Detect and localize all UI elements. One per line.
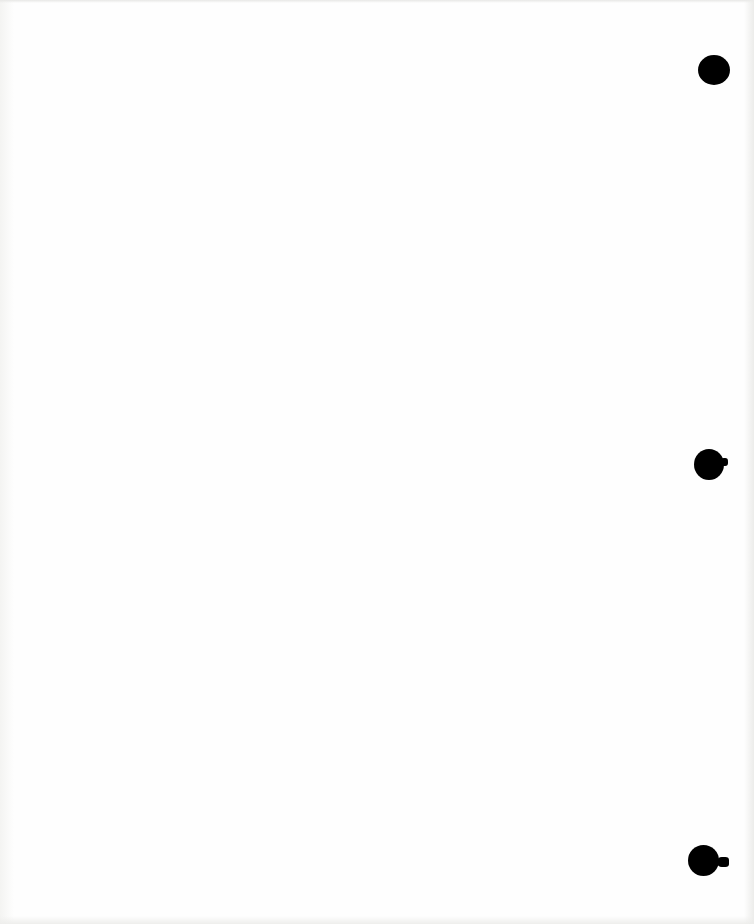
punch-hole-bottom	[688, 845, 719, 876]
blank-page	[0, 0, 754, 924]
page-bottom-edge	[0, 916, 754, 924]
punch-hole-middle	[694, 449, 724, 480]
punch-hole-top	[698, 55, 730, 85]
page-top-edge	[0, 0, 754, 3]
